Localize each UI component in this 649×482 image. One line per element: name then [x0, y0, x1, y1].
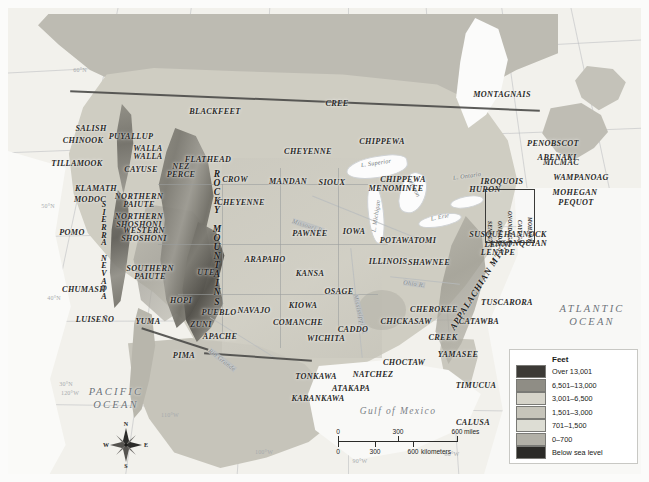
graticule-lat-50 — [8, 126, 641, 154]
iroquois-member-label: SENECA — [487, 221, 493, 243]
iroquois-member-label: ONONDAGA — [507, 211, 513, 243]
graticule-lon-130 — [11, 8, 125, 474]
tribe-label: MOHEGAN — [553, 189, 598, 197]
tribe-label: CHIPPEWA — [359, 138, 404, 146]
tribe-label: ATAKAPA — [332, 385, 370, 393]
tribe-label: ABENAKI — [538, 154, 577, 162]
tribe-label: IROQUOIS — [481, 178, 524, 186]
range-letter: I — [215, 279, 219, 288]
legend-row: 3,001–6,500 — [516, 392, 631, 406]
gulf-of-mexico-label: Gulf of Mexico — [360, 407, 437, 417]
legend-swatch — [516, 419, 546, 432]
scale-bar: 0 300 600 miles 0 300 600 kilometers — [338, 428, 484, 462]
hudson-bay — [448, 18, 516, 128]
tribe-label: CHICKASAW — [380, 318, 431, 326]
great-plains-relief — [222, 158, 382, 358]
scale-tick-km-0 — [338, 442, 339, 447]
tribe-label: ZUNI — [190, 321, 211, 329]
river-label: Ohio R. — [403, 279, 425, 288]
state-border-f — [338, 168, 339, 328]
florida-peninsula — [438, 338, 480, 416]
lake-label: L. Michigan — [371, 199, 382, 232]
legend-swatch — [516, 379, 546, 392]
state-border-a — [158, 184, 368, 185]
sierra-nevada-relief — [106, 190, 134, 308]
tribe-label: NORTHERNPAIUTE — [115, 193, 163, 209]
river-label: Missouri R. — [291, 218, 324, 234]
newfoundland-island — [574, 66, 628, 114]
tribe-label: KLAMATH — [75, 185, 117, 193]
tribe-label: MODOC — [74, 196, 106, 204]
scale-bar-line — [338, 441, 458, 442]
tribe-label: WAMPANOAG — [553, 174, 609, 182]
legend-label: Over 13,001 — [552, 367, 592, 376]
legend-row: 701–1,500 — [516, 419, 631, 433]
canada-landmass — [38, 14, 558, 154]
state-border-d — [222, 184, 223, 334]
scale-tick-km-end — [413, 442, 414, 447]
lake-label: L. Erie — [430, 212, 449, 222]
legend-label: 6,501–13,000 — [552, 381, 597, 390]
scale-km-600: 600 — [407, 448, 418, 455]
us-mexico-border-east — [204, 352, 312, 361]
tribe-label: KARANKAWA — [291, 395, 344, 403]
rio-grande-river — [210, 317, 278, 360]
coordinate-label: 50°N — [41, 203, 55, 209]
tribe-label: PIMA — [173, 352, 195, 360]
legend-swatch — [516, 406, 546, 419]
legend-swatch — [516, 392, 546, 405]
range-letter: A — [101, 293, 106, 301]
coordinate-label: 100°W — [255, 449, 273, 455]
missouri-river — [312, 196, 424, 242]
graticule-lat-30 — [8, 319, 641, 322]
compass-north-label: N — [124, 421, 128, 427]
pacific-ocean-label: PACIFICOCEAN — [89, 385, 143, 411]
tribe-label: CHEYENNE — [217, 199, 265, 207]
range-letter: A — [101, 278, 106, 286]
united-states-landmass — [50, 68, 522, 398]
tribe-label: WALLAWALLA — [133, 145, 162, 161]
range-letter: R — [214, 170, 220, 179]
state-border-c — [178, 294, 378, 295]
appalachian-mts-label: APPALACHIAN MTS. — [448, 243, 509, 332]
mississippi-river — [350, 248, 362, 358]
tribe-label: MICMAC — [543, 159, 579, 167]
range-letter: N — [101, 255, 107, 263]
iroquois-member-names: SENECAONEIDAONONDAGACAYUGAMOHAWK — [485, 191, 535, 243]
iroquois-member-label: MOHAWK — [527, 217, 533, 243]
tribe-label: POTAWATOMI — [380, 237, 437, 245]
tribe-label: KANSA — [296, 270, 325, 278]
tribe-label: PUEBLO — [202, 309, 237, 317]
graticule-lon-110 — [234, 8, 273, 474]
tribe-label: CREEK — [428, 334, 457, 342]
tribe-label: MONTAGNAIS — [473, 91, 531, 99]
graticule-lat-60 — [8, 37, 641, 75]
coordinate-label: 60°N — [73, 67, 87, 73]
tribe-label: CHEROKEE — [410, 306, 458, 314]
compass-rose: N E S W — [102, 420, 150, 470]
range-letter: Y — [214, 206, 220, 215]
tribe-label: IOWA — [343, 228, 366, 236]
legend-row: 0–700 — [516, 433, 631, 447]
us-mexico-border-west — [141, 327, 208, 350]
scale-tick-mid — [398, 436, 399, 441]
tribe-label: CHUMASH — [62, 286, 106, 294]
range-letter — [103, 247, 105, 255]
range-letter: S — [214, 297, 219, 306]
colorado-plateau-relief — [128, 204, 220, 324]
scale-miles-600: 600 — [451, 428, 462, 435]
graticule-lat-40 — [8, 223, 641, 239]
scale-tick-km-mid — [375, 442, 376, 447]
legend-label: 1,501–3,000 — [552, 408, 593, 417]
elevation-legend: Feet Over 13,0016,501–13,0003,001–6,5001… — [509, 349, 638, 464]
baja-peninsula — [126, 308, 160, 418]
scale-miles-unit: miles — [464, 428, 479, 435]
range-letter: T — [214, 261, 220, 270]
state-border-e — [280, 168, 281, 348]
tribe-label: CHOCTAW — [383, 359, 425, 367]
legend-label: Below sea level — [552, 448, 603, 457]
tribe-label: MENOMINEE — [368, 185, 423, 193]
scale-tick-end — [457, 436, 458, 441]
legend-row: Below sea level — [516, 446, 631, 460]
iroquois-member-label: CAYUGA — [517, 220, 523, 243]
